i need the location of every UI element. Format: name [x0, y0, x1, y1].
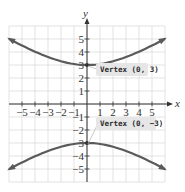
curve-arrow-icon — [158, 164, 166, 170]
y-tick-label: −5 — [72, 163, 84, 175]
x-tick-label: −2 — [55, 106, 67, 118]
y-axis-label: y — [82, 7, 88, 19]
x-tick-label: 4 — [136, 106, 142, 118]
callout-text: Vertex (0, 3) — [100, 65, 159, 74]
curve-arrow-icon — [7, 164, 15, 170]
x-axis-arrow-icon — [167, 102, 173, 107]
y-tick-label: 1 — [79, 85, 85, 97]
x-tick-label: 5 — [149, 106, 155, 118]
curve-arrow-icon — [7, 38, 15, 44]
x-tick-label: −3 — [42, 106, 54, 118]
y-tick-label: −1 — [72, 111, 84, 123]
x-tick-label: 3 — [123, 106, 129, 118]
vertex-callout-upper: Vertex (0, 3) — [88, 63, 159, 76]
y-tick-label: 2 — [79, 72, 85, 84]
x-tick-label: 1 — [97, 106, 103, 118]
y-tick-label: −2 — [72, 124, 84, 136]
x-tick-label: 2 — [110, 106, 116, 118]
curve-arrow-icon — [158, 38, 166, 44]
x-axis-label: x — [174, 97, 180, 109]
x-tick-label: −4 — [29, 106, 41, 118]
y-tick-label: 5 — [79, 33, 85, 45]
callout-text: Vertex (0, −3) — [100, 119, 163, 128]
y-tick-label: 4 — [79, 46, 85, 58]
y-tick-label: −4 — [72, 150, 84, 162]
hyperbola-graph: xy−5−4−3−2−112345−5−4−3−2−112345 Vertex … — [0, 0, 185, 192]
x-tick-label: −5 — [16, 106, 28, 118]
